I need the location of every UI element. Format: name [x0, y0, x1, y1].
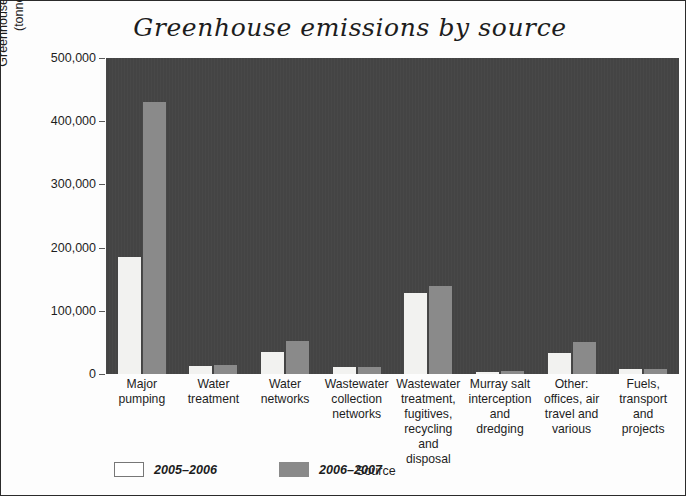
bar[interactable]: [548, 353, 571, 374]
x-tick-label: Other:offices, airtravel andvarious: [536, 377, 608, 467]
bar-group: [607, 58, 679, 374]
bar[interactable]: [573, 342, 596, 374]
bar-group: [178, 58, 250, 374]
bar[interactable]: [619, 369, 642, 374]
bar[interactable]: [333, 367, 356, 374]
y-tick-label: 200,000: [1, 241, 106, 255]
bar[interactable]: [476, 372, 499, 374]
bar[interactable]: [358, 367, 381, 374]
bar[interactable]: [118, 257, 141, 374]
y-tick-label: 400,000: [1, 114, 106, 128]
bar[interactable]: [143, 102, 166, 374]
chart-page: Greenhouse emissions by source Greenhous…: [0, 0, 686, 496]
bar[interactable]: [404, 293, 427, 374]
x-tick-label: Wastewatercollectionnetworks: [321, 377, 393, 467]
x-axis-labels: MajorpumpingWatertreatmentWaternetworksW…: [106, 377, 679, 467]
bar-group: [321, 58, 393, 374]
x-tick-label: Murray saltinterceptionanddredging: [464, 377, 536, 467]
legend-label: 2005–2006: [154, 463, 217, 477]
legend-item[interactable]: 2005–2006: [114, 462, 217, 477]
bar[interactable]: [286, 341, 309, 374]
x-tick-label: Waternetworks: [249, 377, 321, 467]
y-axis-ticks: 0100,000200,000300,000400,000500,000: [1, 58, 106, 374]
bar-group: [464, 58, 536, 374]
bar-groups: [106, 58, 679, 374]
bar[interactable]: [501, 371, 524, 374]
bar-group: [393, 58, 465, 374]
bar-group: [536, 58, 608, 374]
page-title: Greenhouse emissions by source: [1, 13, 685, 42]
bar[interactable]: [261, 352, 284, 374]
x-tick-label: Majorpumping: [106, 377, 178, 467]
bar-group: [106, 58, 178, 374]
x-tick-label: Watertreatment: [178, 377, 250, 467]
y-tick-label: 500,000: [1, 51, 106, 65]
x-tick-label: Fuels,transportandprojects: [607, 377, 679, 467]
legend-swatch: [279, 462, 309, 477]
y-tick-label: 0: [1, 367, 106, 381]
bar-group: [249, 58, 321, 374]
x-tick-label: Wastewatertreatment,fugitives,recycling …: [393, 377, 465, 467]
y-tick-label: 300,000: [1, 177, 106, 191]
bar[interactable]: [429, 286, 452, 374]
chart-legend: 2005–20062006–2007: [114, 462, 382, 477]
x-axis-title: Source: [356, 464, 396, 478]
legend-swatch: [114, 462, 144, 477]
bar[interactable]: [644, 369, 667, 374]
bar[interactable]: [214, 365, 237, 374]
bar[interactable]: [189, 366, 212, 374]
y-tick-label: 100,000: [1, 304, 106, 318]
